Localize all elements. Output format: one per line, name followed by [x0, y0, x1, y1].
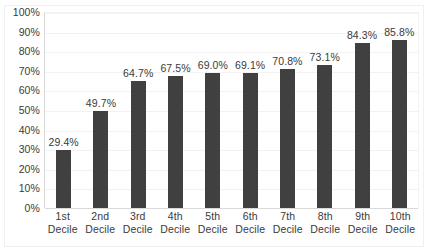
x-axis-category-line2: Decile: [82, 223, 120, 236]
bar-slot: 73.1%: [306, 13, 343, 208]
bar[interactable]: 70.8%: [280, 69, 295, 208]
bar-value-label: 84.3%: [347, 29, 377, 41]
x-axis-category-line2: Decile: [269, 223, 307, 236]
x-axis-category-line2: Decile: [382, 223, 420, 236]
y-axis-tick-label: 100%: [13, 6, 40, 18]
x-axis-category-label: 6thDecile: [232, 210, 270, 248]
bar-chart: 100%90%80%70%60%50%40%30%20%10%0% 29.4%4…: [0, 0, 428, 252]
x-axis-category-line1: 10th: [382, 210, 420, 223]
bar-slot: 85.8%: [381, 13, 418, 208]
x-axis-category-label: 1stDecile: [44, 210, 82, 248]
x-axis-category-line1: 4th: [157, 210, 195, 223]
bar-value-label: 69.0%: [198, 59, 228, 71]
plot-wrapper: 100%90%80%70%60%50%40%30%20%10%0% 29.4%4…: [0, 0, 428, 252]
bar-value-label: 70.8%: [272, 55, 302, 67]
x-axis-category-line2: Decile: [194, 223, 232, 236]
bar-slot: 69.1%: [231, 13, 268, 208]
x-axis-category-line1: 7th: [269, 210, 307, 223]
x-axis-category-line1: 5th: [194, 210, 232, 223]
y-axis-tick-label: 30%: [19, 143, 40, 155]
x-axis-category-label: 7thDecile: [269, 210, 307, 248]
bar-slot: 70.8%: [269, 13, 306, 208]
bar-slot: 67.5%: [157, 13, 194, 208]
x-axis-category-line1: 3rd: [119, 210, 157, 223]
x-axis-category-label: 9thDecile: [344, 210, 382, 248]
x-axis-category-label: 2ndDecile: [82, 210, 120, 248]
x-axis-category-line1: 6th: [232, 210, 270, 223]
bar-slot: 64.7%: [120, 13, 157, 208]
axis-baseline: [45, 208, 418, 209]
bar[interactable]: 49.7%: [93, 111, 108, 208]
x-axis-category-label: 5thDecile: [194, 210, 232, 248]
x-axis-category-line1: 9th: [344, 210, 382, 223]
x-axis-category-line2: Decile: [44, 223, 82, 236]
plot-area: 29.4%49.7%64.7%67.5%69.0%69.1%70.8%73.1%…: [44, 12, 419, 208]
bar-value-label: 69.1%: [235, 59, 265, 71]
y-axis-tick-label: 20%: [19, 163, 40, 175]
x-axis-category-line1: 2nd: [82, 210, 120, 223]
bar-value-label: 49.7%: [86, 97, 116, 109]
bar[interactable]: 85.8%: [392, 40, 407, 208]
y-axis-tick-label: 60%: [19, 84, 40, 96]
bar-value-label: 64.7%: [123, 67, 153, 79]
bar[interactable]: 84.3%: [355, 43, 370, 208]
x-axis-category-label: 3rdDecile: [119, 210, 157, 248]
bar-value-label: 67.5%: [160, 62, 190, 74]
bar[interactable]: 69.1%: [243, 73, 258, 208]
x-axis-category-label: 10thDecile: [382, 210, 420, 248]
bar-value-label: 29.4%: [49, 136, 79, 148]
bar-slot: 84.3%: [343, 13, 380, 208]
bar-slot: 49.7%: [82, 13, 119, 208]
bar-slot: 69.0%: [194, 13, 231, 208]
y-axis: 100%90%80%70%60%50%40%30%20%10%0%: [4, 12, 40, 208]
y-axis-tick-label: 10%: [19, 182, 40, 194]
x-axis-category-label: 8thDecile: [307, 210, 345, 248]
bar-series: 29.4%49.7%64.7%67.5%69.0%69.1%70.8%73.1%…: [45, 13, 418, 208]
bar[interactable]: 67.5%: [168, 76, 183, 208]
y-axis-tick-label: 50%: [19, 104, 40, 116]
x-axis-category-line1: 1st: [44, 210, 82, 223]
bar-value-label: 85.8%: [384, 26, 414, 38]
x-axis-category-line2: Decile: [344, 223, 382, 236]
y-axis-tick-label: 80%: [19, 45, 40, 57]
bar[interactable]: 69.0%: [205, 73, 220, 208]
x-axis-category-label: 4thDecile: [157, 210, 195, 248]
bar-value-label: 73.1%: [310, 51, 340, 63]
x-axis-category-line2: Decile: [307, 223, 345, 236]
bar[interactable]: 64.7%: [131, 81, 146, 208]
x-axis-category-line2: Decile: [157, 223, 195, 236]
bar[interactable]: 73.1%: [317, 65, 332, 208]
x-axis: 1stDecile2ndDecile3rdDecile4thDecile5thD…: [44, 210, 419, 248]
y-axis-tick-label: 90%: [19, 26, 40, 38]
bar[interactable]: 29.4%: [56, 150, 71, 208]
bar-slot: 29.4%: [45, 13, 82, 208]
y-axis-tick-label: 0%: [25, 202, 40, 214]
x-axis-category-line2: Decile: [232, 223, 270, 236]
x-axis-category-line2: Decile: [119, 223, 157, 236]
y-axis-tick-label: 40%: [19, 124, 40, 136]
x-axis-category-line1: 8th: [307, 210, 345, 223]
y-axis-tick-label: 70%: [19, 65, 40, 77]
